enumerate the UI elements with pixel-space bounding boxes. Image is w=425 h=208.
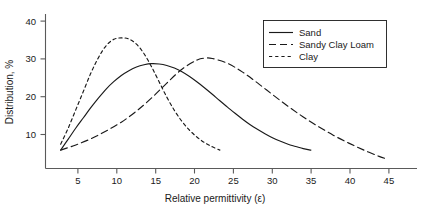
legend-label-sandy-clay-loam: Sandy Clay Loam xyxy=(299,39,374,50)
y-axis-ticks xyxy=(41,21,46,134)
x-axis-title: Relative permittivity (ε) xyxy=(165,193,266,204)
chart-legend: Sand Sandy Clay Loam Clay xyxy=(264,21,387,68)
x-tick-label: 30 xyxy=(267,175,278,186)
x-tick-label: 20 xyxy=(189,175,200,186)
x-axis-ticks xyxy=(78,169,389,174)
x-tick-label: 5 xyxy=(75,175,80,186)
distribution-line-chart: 40 30 20 10 Distribution, % 5 10 15 20 2… xyxy=(0,0,425,208)
y-tick-label: 30 xyxy=(25,53,36,64)
legend-label-clay: Clay xyxy=(299,51,318,62)
series-line-sandy-clay-loam xyxy=(61,58,387,159)
y-tick-label: 10 xyxy=(25,129,36,140)
x-tick-label: 15 xyxy=(150,175,161,186)
chart-figure: 40 30 20 10 Distribution, % 5 10 15 20 2… xyxy=(0,0,425,208)
x-tick-label: 10 xyxy=(112,175,123,186)
x-tick-label: 25 xyxy=(228,175,239,186)
x-axis-tick-labels: 5 10 15 20 25 30 35 40 45 xyxy=(75,175,394,186)
y-axis-tick-labels: 40 30 20 10 xyxy=(25,16,36,140)
y-axis-title: Distribution, % xyxy=(4,60,15,125)
x-tick-label: 40 xyxy=(345,175,356,186)
x-tick-label: 35 xyxy=(306,175,317,186)
series-line-sand xyxy=(61,64,311,150)
x-tick-label: 45 xyxy=(384,175,395,186)
y-tick-label: 20 xyxy=(25,91,36,102)
legend-label-sand: Sand xyxy=(299,27,321,38)
y-tick-label: 40 xyxy=(25,16,36,27)
series-line-clay xyxy=(61,38,220,150)
